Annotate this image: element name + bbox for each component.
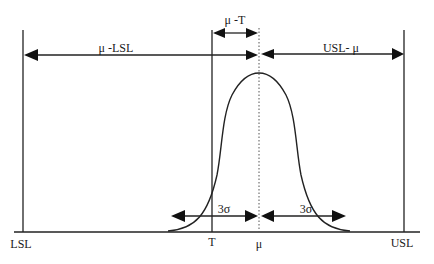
mean-minus-lsl-label: μ -LSL (99, 41, 134, 55)
arrowhead-right-icon (246, 50, 258, 60)
mean-minus-target-label: μ -T (225, 13, 246, 27)
arrowhead-left-icon (261, 210, 274, 222)
target-label: T (208, 235, 216, 249)
mean-minus-lsl-arrow (24, 49, 258, 61)
arrowhead-right-icon (245, 210, 258, 222)
mean-minus-target-arrow (213, 28, 258, 38)
three-sigma-left-label: 3σ (218, 202, 231, 216)
arrowhead-right-icon (246, 28, 258, 38)
arrowhead-left-icon (261, 49, 274, 59)
usl-label: USL (391, 236, 414, 250)
arrowhead-right-icon (392, 48, 404, 60)
arrowhead-left-icon (24, 49, 38, 61)
arrowhead-left-icon (171, 210, 185, 222)
three-sigma-left-arrow (171, 210, 258, 222)
lsl-label: LSL (10, 237, 31, 251)
mean-label: μ (256, 237, 262, 251)
process-capability-diagram: μ -T μ -LSL USL- μ 3σ 3σ LSL T μ USL (0, 0, 434, 264)
three-sigma-right-label: 3σ (300, 202, 313, 216)
arrowhead-left-icon (213, 28, 225, 38)
usl-minus-mean-label: USL- μ (323, 41, 359, 55)
arrowhead-right-icon (332, 210, 346, 222)
